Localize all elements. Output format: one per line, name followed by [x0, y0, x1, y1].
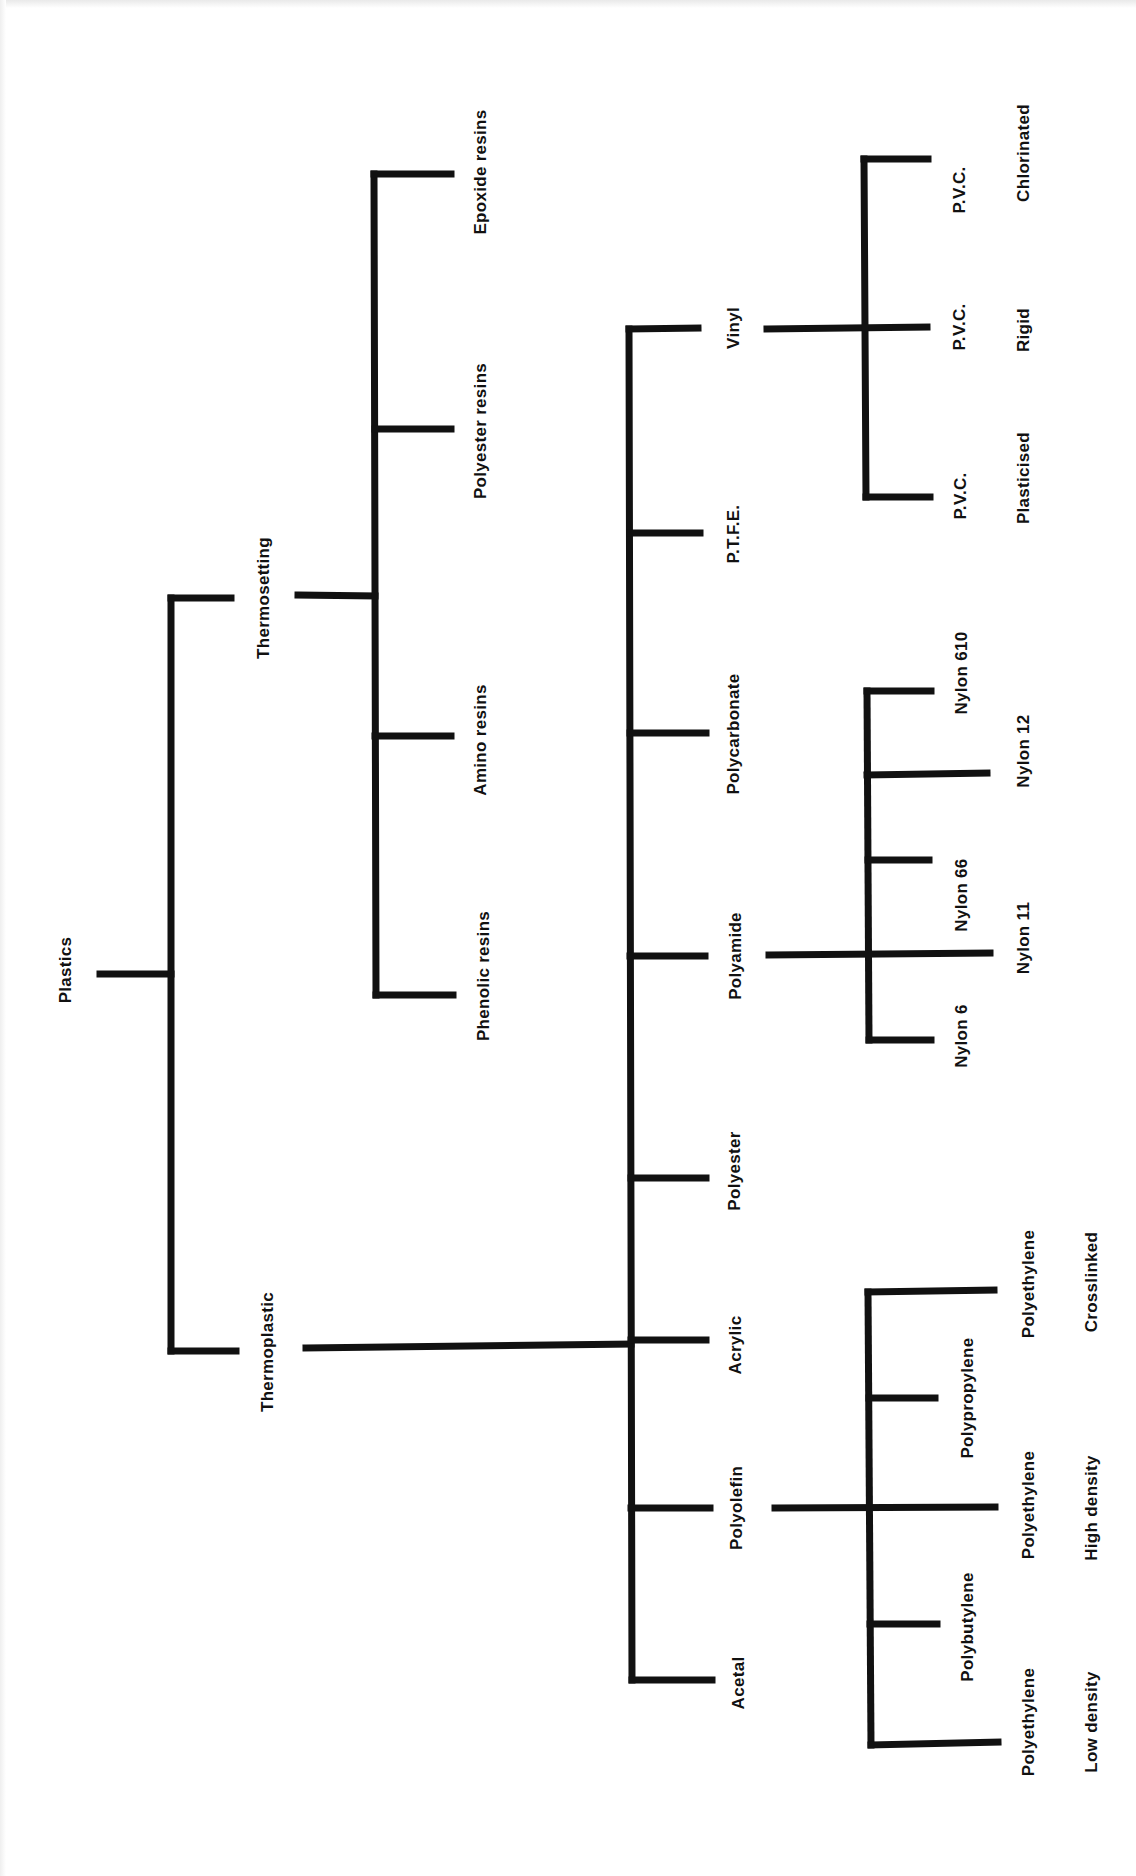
node-pvc-chlorinated-line1: P.V.C.: [950, 166, 970, 213]
node-amino-resins: Amino resins: [471, 684, 491, 795]
node-nylon-6: Nylon 6: [952, 1004, 972, 1068]
node-pe-high-density-line1: Polyethylene: [1019, 1451, 1039, 1559]
nylon-12-tick: [867, 773, 987, 775]
thermosetting-trunk: [374, 174, 376, 995]
node-pe-crosslinked-line2: Crosslinked: [1082, 1232, 1102, 1333]
node-nylon-66: Nylon 66: [952, 858, 972, 931]
node-polyamide: Polyamide: [726, 912, 746, 1000]
pe-crosslinked-tick: [868, 1290, 994, 1292]
polyamide-stem: [769, 953, 990, 955]
node-nylon-12: Nylon 12: [1014, 714, 1034, 787]
node-polyester-resins: Polyester resins: [471, 363, 491, 499]
node-plastics: Plastics: [56, 937, 76, 1004]
vinyl-stem: [767, 327, 927, 329]
node-nylon-11: Nylon 11: [1014, 902, 1034, 974]
node-polyolefin: Polyolefin: [727, 1466, 747, 1550]
node-acetal: Acetal: [729, 1657, 749, 1710]
node-thermoplastic: Thermoplastic: [258, 1292, 278, 1412]
node-pe-low-density-line2: Low density: [1082, 1671, 1102, 1773]
node-pe-low-density-line1: Polyethylene: [1019, 1668, 1039, 1776]
node-acrylic: Acrylic: [726, 1316, 746, 1375]
node-thermosetting: Thermosetting: [254, 537, 274, 659]
node-nylon-610: Nylon 610: [952, 631, 972, 714]
nylon-trunk: [867, 691, 869, 1040]
polyolefin-stem: [775, 1507, 995, 1508]
vinyl-trunk: [864, 159, 866, 497]
node-polycarbonate: Polycarbonate: [724, 673, 744, 794]
node-ptfe: P.T.F.E.: [724, 505, 744, 564]
node-vinyl: Vinyl: [724, 307, 744, 349]
vinyl-tick: [629, 328, 698, 329]
node-polybutylene: Polybutylene: [958, 1572, 978, 1681]
node-pvc-rigid-line2: Rigid: [1014, 308, 1034, 352]
polyolefin-trunk: [868, 1292, 871, 1745]
node-pvc-chlorinated-line2: Chlorinated: [1014, 104, 1034, 202]
thermosetting-stem: [298, 595, 375, 596]
pe-low-density-tick: [871, 1742, 998, 1745]
node-phenolic-resins: Phenolic resins: [474, 911, 494, 1041]
thermoplastic-stem: [306, 1344, 631, 1348]
node-pe-crosslinked-line1: Polyethylene: [1019, 1230, 1039, 1338]
node-polypropylene: Polypropylene: [958, 1337, 978, 1458]
node-epoxide-resins: Epoxide resins: [471, 109, 491, 234]
node-pe-high-density-line2: High density: [1082, 1455, 1102, 1561]
node-pvc-plasticised-line2: Plasticised: [1014, 432, 1034, 524]
node-pvc-rigid-line1: P.V.C.: [950, 303, 970, 350]
node-pvc-plasticised-line1: P.V.C.: [951, 472, 971, 519]
node-polyester: Polyester: [725, 1131, 745, 1210]
